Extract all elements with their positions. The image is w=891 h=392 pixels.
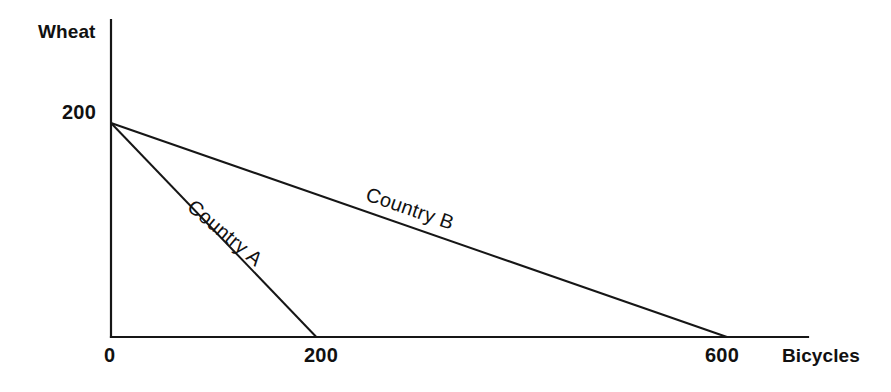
y-axis-title: Wheat: [38, 22, 96, 41]
x-tick-label-0: 0: [104, 345, 115, 365]
x-tick-label-600: 600: [705, 345, 739, 365]
y-tick-label-200: 200: [62, 102, 96, 122]
ppf-chart-figure: Wheat 200 0 200 600 Bicycles Country A C…: [0, 0, 891, 392]
x-axis-title: Bicycles: [782, 346, 860, 365]
chart-plot-area: [0, 0, 891, 392]
x-tick-label-200: 200: [304, 345, 338, 365]
country-b-ppf-line: [111, 123, 727, 337]
